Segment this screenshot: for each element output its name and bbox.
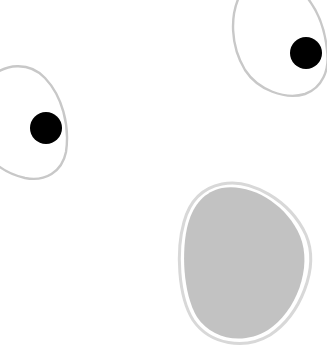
- face-illustration: [0, 0, 327, 352]
- left-eye-pupil: [30, 112, 62, 144]
- right-eye-pupil: [290, 37, 322, 69]
